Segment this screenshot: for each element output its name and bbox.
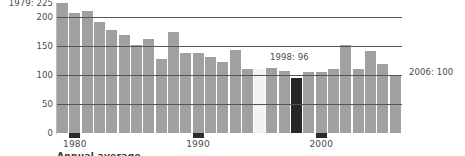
y-tick-200: 200 — [36, 13, 53, 22]
bar-1982 — [94, 22, 105, 133]
plot-area — [57, 3, 402, 133]
bar-1989 — [180, 53, 191, 133]
bar-2002 — [340, 45, 351, 133]
x-tick-mark-1980 — [69, 133, 80, 138]
bar-2003 — [353, 69, 364, 133]
x-tick-mark-2000 — [316, 133, 327, 138]
bar-1979 — [57, 3, 68, 133]
bar-1994 — [242, 69, 253, 133]
y-tick-0: 0 — [47, 129, 53, 138]
y-tick-225: 1979: 225 — [9, 0, 53, 8]
y-axis: 1979: 225200150100500 — [0, 0, 53, 140]
annotation-min-value: 1998: 96 — [270, 52, 309, 62]
bar-1987 — [156, 59, 167, 133]
gridline-100 — [57, 75, 402, 76]
x-tick-label-1980: 1980 — [61, 139, 89, 150]
y-tick-50: 50 — [42, 100, 53, 109]
bar-1985 — [131, 45, 142, 133]
gridline-150 — [57, 46, 402, 47]
x-tick-label-2000: 2000 — [307, 139, 335, 150]
y-tick-100: 100 — [36, 71, 53, 80]
bar-1981 — [82, 11, 93, 133]
bar-1992 — [217, 62, 228, 133]
bar-2004 — [365, 51, 376, 133]
x-tick-mark-1990 — [193, 133, 204, 138]
bar-1998 — [291, 78, 302, 133]
bar-1993 — [230, 50, 241, 133]
bar-1986 — [143, 39, 154, 133]
bar-1995 — [254, 69, 265, 133]
gridline-200 — [57, 17, 402, 18]
x-tick-label-1990: 1990 — [184, 139, 212, 150]
gridline-50 — [57, 104, 402, 105]
y-tick-150: 150 — [36, 42, 53, 51]
annotation-last-value: 2006: 100 — [409, 67, 453, 77]
bar-1983 — [106, 30, 117, 133]
bar-1984 — [119, 35, 130, 133]
bar-1990 — [193, 53, 204, 133]
bar-1996 — [266, 68, 277, 133]
bar-2001 — [328, 69, 339, 133]
bar-1997 — [279, 71, 290, 133]
bar-2005 — [377, 64, 388, 133]
bar-chart: 1979: 225200150100500 198019902000 1998:… — [0, 0, 465, 156]
bar-1980 — [69, 13, 80, 133]
bar-2000 — [316, 72, 327, 133]
clipped-caption: Annual average — [57, 152, 417, 156]
bar-1999 — [303, 72, 314, 133]
bar-1991 — [205, 57, 216, 133]
